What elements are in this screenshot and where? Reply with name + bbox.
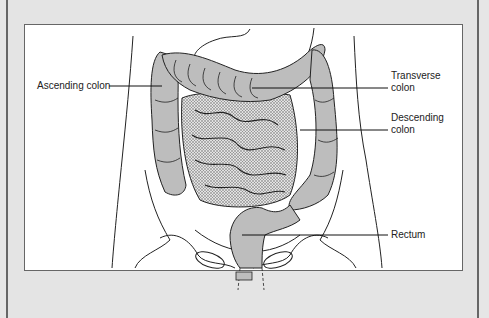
body-left-outline xyxy=(112,36,133,268)
label-descending-colon-line2: colon xyxy=(391,124,415,136)
label-ascending-colon: Ascending colon xyxy=(37,80,110,92)
label-rectum: Rectum xyxy=(391,229,425,241)
body-right-outline xyxy=(354,36,382,268)
label-descending-colon-line1: Descending xyxy=(391,112,444,124)
label-transverse-colon-line2: colon xyxy=(391,82,415,94)
label-transverse-colon-line1: Transverse xyxy=(391,70,441,82)
small-intestine xyxy=(182,92,298,207)
